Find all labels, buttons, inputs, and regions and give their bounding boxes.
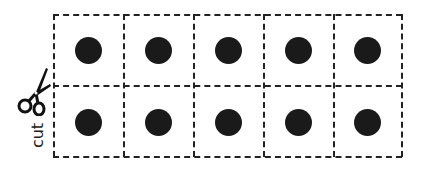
counter-dot: [354, 109, 381, 136]
ten-frame-grid: [53, 14, 402, 157]
cut-line-col-1: [123, 14, 125, 157]
cut-line-col-4: [333, 14, 335, 157]
counter-dot: [75, 37, 102, 64]
counter-dot: [285, 37, 312, 64]
cut-line-bottom: [53, 156, 402, 158]
cut-line-right: [401, 14, 403, 157]
counter-dot: [145, 109, 172, 136]
scissors-icon: [16, 66, 52, 116]
counter-dot: [285, 109, 312, 136]
counter-dot: [215, 37, 242, 64]
cut-label: cut: [28, 121, 47, 151]
counter-dot: [145, 37, 172, 64]
cut-line-middle: [53, 85, 402, 87]
counter-dot: [215, 109, 242, 136]
counter-dot: [75, 109, 102, 136]
cut-line-top: [53, 14, 402, 16]
counter-dot: [354, 37, 381, 64]
cut-line-col-2: [193, 14, 195, 157]
cut-line-left: [53, 14, 55, 157]
cut-line-col-3: [263, 14, 265, 157]
